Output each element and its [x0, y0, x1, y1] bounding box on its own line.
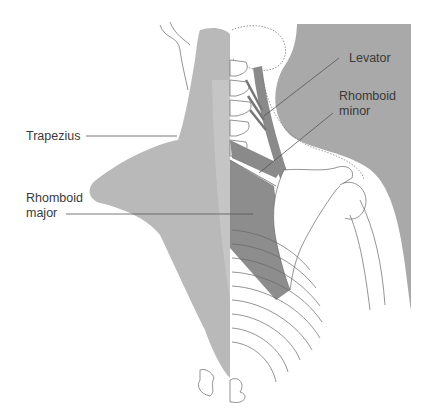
humerus-shaft-2 [360, 200, 385, 305]
humerus-shaft-1 [350, 215, 370, 310]
label-rhomboid-minor: Rhomboid minor [339, 89, 396, 119]
label-rhomboid-major: Rhomboid major [26, 191, 83, 221]
label-levator: Levator [349, 51, 391, 66]
trapezius-muscle [90, 28, 230, 378]
neck-outline-left [160, 25, 188, 90]
humeral-head [340, 182, 366, 219]
label-trapezius: Trapezius [26, 129, 80, 144]
anatomy-diagram: Trapezius Rhomboid major Levator Rhomboi… [0, 0, 434, 416]
neck-outline-left-2 [170, 22, 190, 45]
